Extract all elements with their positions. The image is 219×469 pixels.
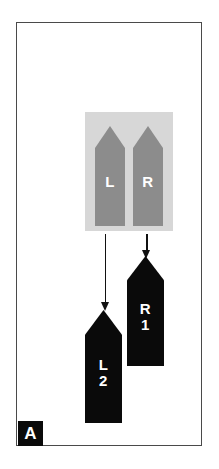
result-shape-r1-labels: R 1 xyxy=(127,301,164,333)
source-shape-left-label: L xyxy=(105,174,115,190)
source-shape-right-labels: R xyxy=(133,174,163,190)
result-shape-r1-letter: R xyxy=(140,301,151,317)
source-inset-box: L R xyxy=(85,112,173,231)
arrow-down-right xyxy=(142,234,152,262)
arrow-down-left xyxy=(101,234,111,312)
arrow-down-left-shaft xyxy=(105,234,106,304)
panel-label-tag: A xyxy=(18,421,43,446)
result-shape-l2-letter: L xyxy=(99,357,109,373)
result-shape-l2: L 2 xyxy=(85,310,122,423)
result-shape-l2-labels: L 2 xyxy=(85,357,122,389)
figure-root: L R R 1 L xyxy=(0,0,219,469)
result-shape-r1: R 1 xyxy=(127,256,164,366)
arrow-down-left-head xyxy=(101,302,109,311)
panel-label-text: A xyxy=(24,424,36,444)
source-shape-left-labels: L xyxy=(95,174,125,190)
panel-frame: L R R 1 L xyxy=(16,22,202,446)
result-shape-l2-number: 2 xyxy=(99,373,108,389)
source-shape-right: R xyxy=(133,126,163,226)
result-shape-r1-number: 1 xyxy=(141,317,150,333)
source-shape-left: L xyxy=(95,126,125,226)
source-shape-right-label: R xyxy=(142,174,153,190)
